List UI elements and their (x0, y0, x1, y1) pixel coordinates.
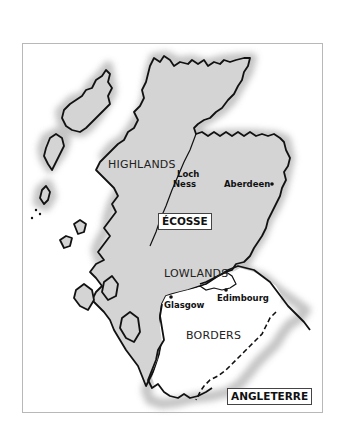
label-edinburgh: Edimbourg (217, 294, 269, 303)
label-angleterre: ANGLETERRE (227, 388, 312, 405)
glasgow-dot (169, 295, 173, 299)
label-ecosse: ÉCOSSE (158, 213, 212, 230)
edinburgh-dot (224, 288, 228, 292)
label-glasgow: Glasgow (164, 301, 204, 310)
label-highlands: HIGHLANDS (108, 159, 176, 170)
label-lowlands: LOWLANDS (164, 268, 228, 279)
aberdeen-dot (270, 182, 274, 186)
label-borders: BORDERS (186, 330, 241, 341)
label-ness: Ness (173, 180, 196, 189)
label-loch: Loch (177, 170, 199, 179)
label-aberdeen: Aberdeen (224, 180, 270, 189)
small-islands (31, 209, 41, 219)
